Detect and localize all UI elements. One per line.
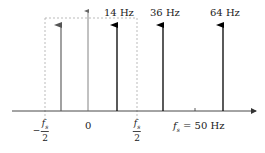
label-half-fs: fs 2 [133, 119, 141, 143]
label-fs: fs = 50 Hz [173, 121, 224, 133]
label-zero: 0 [85, 121, 91, 131]
label-neg-half-fs: − fs 2 [41, 119, 49, 143]
nyquist-box [45, 18, 137, 119]
label-64hz: 64 Hz [210, 8, 240, 18]
label-36hz: 36 Hz [150, 8, 180, 18]
label-14hz: 14 Hz [104, 8, 134, 18]
